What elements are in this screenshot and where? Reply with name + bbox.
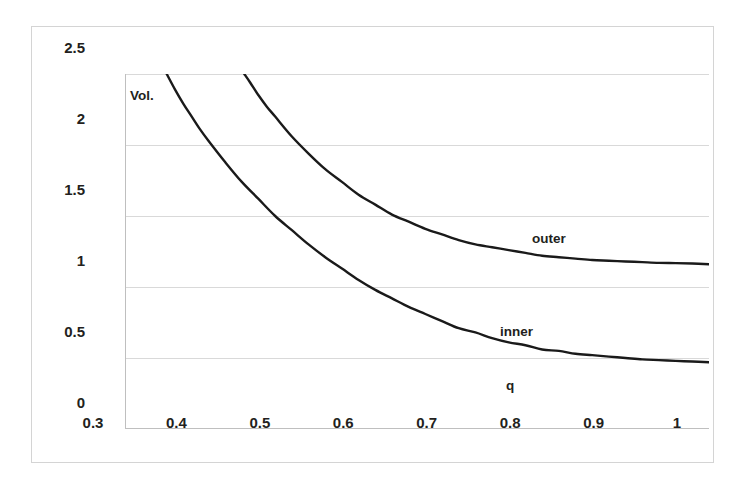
x-tick-label-0.6: 0.6 xyxy=(333,415,354,430)
x-tick-label-0.4: 0.4 xyxy=(166,415,187,430)
x-tick-label-0.9: 0.9 xyxy=(583,415,604,430)
x-axis-tick-labels: 0.30.40.50.60.70.80.91 xyxy=(0,415,741,445)
y-tick-label-2.5: 2.5 xyxy=(64,40,85,55)
x-tick-label-0.7: 0.7 xyxy=(416,415,437,430)
x-tick-label-1: 1 xyxy=(673,415,681,430)
y-axis-title: Vol. xyxy=(130,89,154,103)
series-label-inner: inner xyxy=(500,325,533,339)
y-tick-label-0.5: 0.5 xyxy=(64,324,85,339)
x-tick-label-0.3: 0.3 xyxy=(83,415,104,430)
series-line-inner xyxy=(167,74,709,362)
x-tick-label-0.8: 0.8 xyxy=(500,415,521,430)
series-label-outer: outer xyxy=(532,232,566,246)
plot-area xyxy=(125,74,709,429)
plot-svg xyxy=(125,74,709,429)
x-tick-marks-group xyxy=(125,74,709,429)
series-line-outer xyxy=(244,74,709,264)
axis-lines-group xyxy=(125,74,709,429)
x-tick-label-0.5: 0.5 xyxy=(249,415,270,430)
y-tick-label-0: 0 xyxy=(77,395,85,410)
chart-frame: Vol. outer inner q xyxy=(31,26,714,463)
y-tick-label-1: 1 xyxy=(77,253,85,268)
series-curves-group xyxy=(167,74,709,362)
chart-figure: Vol. outer inner q 00.511.522.5 0.30.40.… xyxy=(0,0,741,494)
x-axis-title: q xyxy=(506,379,514,393)
y-tick-label-2: 2 xyxy=(77,111,85,126)
y-tick-label-1.5: 1.5 xyxy=(64,182,85,197)
gridlines-group xyxy=(125,74,709,429)
